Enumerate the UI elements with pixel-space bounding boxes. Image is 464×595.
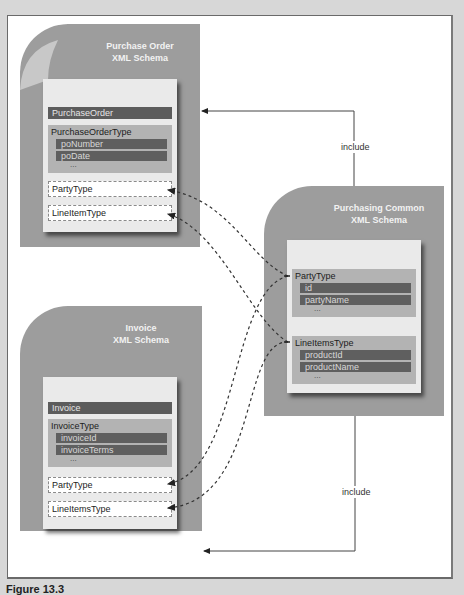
- include-label-bottom: include: [342, 486, 371, 498]
- include-label-top: include: [341, 141, 370, 153]
- figure-caption: Figure 13.3: [6, 583, 64, 595]
